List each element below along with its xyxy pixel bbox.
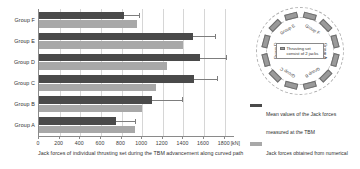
error-bar <box>124 15 139 16</box>
x-tick <box>100 136 101 139</box>
error-bar <box>194 79 218 80</box>
x-tick <box>141 136 142 139</box>
bar-simulation <box>39 62 167 70</box>
legend-item-measured: Mean values of the Jack forces measured … <box>250 102 358 138</box>
chart-legend: Mean values of the Jack forces measured … <box>250 102 358 168</box>
y-axis-group-label: Group A <box>15 122 35 128</box>
x-tick-label: 600 <box>95 140 104 146</box>
x-tick <box>203 136 204 139</box>
legend-item-simulation: Jack forces obtained from numerical simu… <box>250 141 358 169</box>
x-tick-label: 800 <box>116 140 125 146</box>
bar-group: Group C <box>39 73 234 94</box>
bar-simulation <box>39 20 137 28</box>
error-bar <box>200 58 226 59</box>
error-bar-cap <box>135 119 136 124</box>
x-tick <box>182 136 183 139</box>
x-axis-title: Jack forces of individual thrusting set … <box>38 150 268 156</box>
bar-measured <box>39 54 200 62</box>
y-axis-group-label: Group C <box>14 80 35 86</box>
x-tick-label: 200 <box>54 140 63 146</box>
chart-figure: Group FGroup EGroup DGroup CGroup BGroup… <box>0 0 360 168</box>
jack-swatch-icon <box>280 47 285 51</box>
bar-group: Group B <box>39 94 234 115</box>
bar-simulation <box>39 105 142 113</box>
error-bar-cap <box>215 34 216 39</box>
x-tick-label: 1800 <box>218 140 230 146</box>
y-axis-group-label: Group E <box>14 38 35 44</box>
error-bar-cap <box>139 13 140 18</box>
bar-simulation <box>39 126 135 134</box>
x-tick <box>79 136 80 139</box>
error-bar-cap <box>226 55 227 60</box>
legend-label-simulation: Jack forces obtained from numerical simu… <box>266 150 348 169</box>
x-tick-label: 400 <box>75 140 84 146</box>
bar-measured <box>39 96 152 104</box>
tbm-center-note: Thrusting set consist of 2 jacks <box>276 43 324 59</box>
bar-measured <box>39 117 116 125</box>
legend-swatch-measured-icon <box>250 104 262 108</box>
x-tick <box>38 136 39 139</box>
bar-chart: Group FGroup EGroup DGroup CGroup BGroup… <box>0 0 246 168</box>
bar-measured <box>39 33 193 41</box>
error-bar <box>193 36 216 37</box>
tbm-center-note-text: Thrusting set consist of 2 jacks <box>287 46 321 56</box>
error-bar <box>116 121 135 122</box>
bar-simulation <box>39 41 183 49</box>
bar-measured <box>39 12 124 20</box>
bar-measured <box>39 75 194 83</box>
error-bar <box>152 100 182 101</box>
x-tick-label: 1200 <box>156 140 168 146</box>
bar-group: Group E <box>39 30 234 51</box>
x-tick <box>59 136 60 139</box>
bar-group: Group F <box>39 9 234 30</box>
x-tick <box>224 136 225 139</box>
bar-simulation <box>39 84 156 92</box>
y-axis-group-label: Group D <box>14 59 35 65</box>
legend-swatch-simulation-icon <box>250 142 262 146</box>
error-bar-cap <box>217 76 218 81</box>
legend-label-measured: Mean values of the Jack forces measured … <box>266 111 336 135</box>
tbm-cross-section-diagram: Group FGroup AGroup BGroup CGroup DGroup… <box>252 4 348 98</box>
error-bar-cap <box>182 97 183 102</box>
x-axis-unit: [kN] <box>231 140 240 146</box>
x-tick <box>121 136 122 139</box>
x-axis-line <box>38 136 234 137</box>
bar-group: Group A <box>39 115 234 136</box>
x-tick <box>162 136 163 139</box>
y-axis-group-label: Group B <box>14 101 35 107</box>
plot-area: Group FGroup EGroup DGroup CGroup BGroup… <box>38 9 234 136</box>
x-tick-label: 0 <box>37 140 40 146</box>
y-axis-group-label: Group F <box>15 17 35 23</box>
x-tick-label: 1000 <box>135 140 147 146</box>
x-tick-label: 1600 <box>197 140 209 146</box>
bar-group: Group D <box>39 51 234 72</box>
x-tick-label: 1400 <box>176 140 188 146</box>
